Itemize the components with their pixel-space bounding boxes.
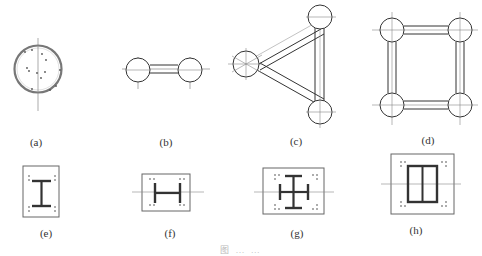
panel-f-label: (f) <box>165 227 176 239</box>
panel-g-cross-section <box>254 168 334 214</box>
panel-d-label: (d) <box>422 134 435 146</box>
panel-h-box-section <box>381 154 461 214</box>
panel-f-h-section <box>132 174 204 211</box>
panel-a-label: (a) <box>30 136 42 148</box>
panel-h-label: (h) <box>410 224 423 236</box>
panel-b-two-limb-section <box>122 57 210 89</box>
panel-b-label: (b) <box>160 136 173 148</box>
panel-c-label: (c) <box>290 135 302 147</box>
figure-caption: 图 … … <box>220 243 262 256</box>
panel-a-circular-section <box>15 38 62 111</box>
panel-e-i-section <box>23 166 59 217</box>
panel-c-three-limb-section <box>228 5 336 128</box>
panel-e-label: (e) <box>40 227 52 239</box>
panel-g-label: (g) <box>291 227 304 239</box>
panel-d-four-limb-section <box>372 12 478 125</box>
